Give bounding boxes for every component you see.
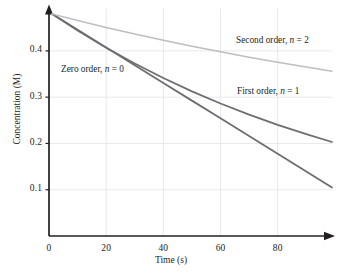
x-axis-title: Time (s) xyxy=(0,255,342,265)
series-label-text: First order, xyxy=(237,86,280,96)
y-axis-title: Concentration (M) xyxy=(12,54,22,164)
kinetics-concentration-vs-time-chart: 0.10.20.30.4 020406080 Concentration (M)… xyxy=(0,0,342,273)
x-tick-label: 60 xyxy=(201,243,241,253)
y-tick-label: 0.4 xyxy=(4,44,42,54)
series-label-value: = 1 xyxy=(285,86,300,96)
series-label-value: = 2 xyxy=(294,35,309,45)
x-tick-label: 80 xyxy=(258,243,298,253)
series-label-text: Second order, xyxy=(236,35,290,45)
series-label-second-order: Second order, n = 2 xyxy=(236,35,309,45)
series-label-zero-order: Zero order, n = 0 xyxy=(61,64,124,74)
series-label-value: = 0 xyxy=(109,64,124,74)
x-tick-label: 0 xyxy=(29,243,69,253)
series-label-first-order: First order, n = 1 xyxy=(237,86,299,96)
y-tick-label: 0.3 xyxy=(4,91,42,101)
series-label-text: Zero order, xyxy=(61,64,105,74)
y-tick-label: 0.2 xyxy=(4,137,42,147)
x-tick-label: 40 xyxy=(143,243,183,253)
x-tick-label: 20 xyxy=(86,243,126,253)
y-tick-label: 0.1 xyxy=(4,183,42,193)
